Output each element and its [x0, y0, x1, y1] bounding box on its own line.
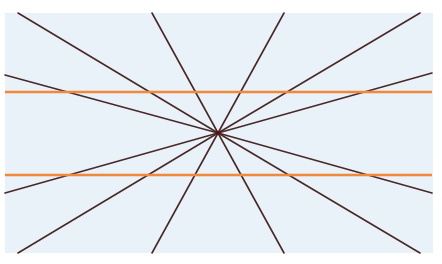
center-point — [216, 131, 220, 135]
hering-illusion-figure — [0, 0, 442, 264]
